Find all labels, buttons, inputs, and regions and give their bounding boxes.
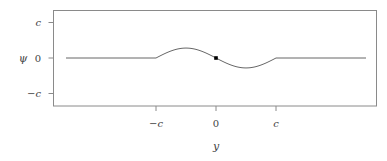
chart: c0−c −c0c ψ y: [0, 0, 387, 161]
y-tick-label: c: [35, 17, 41, 28]
x-tick-label: −c: [149, 118, 163, 129]
x-tick-label: c: [273, 118, 279, 129]
x-axis-label: y: [212, 140, 220, 153]
y-ticks: c0−c: [27, 17, 53, 99]
y-tick-label: −c: [27, 88, 41, 99]
markers: [214, 56, 218, 60]
origin-marker: [214, 56, 218, 60]
x-ticks: −c0c: [149, 106, 279, 129]
y-tick-label: 0: [35, 53, 41, 64]
x-tick-label: 0: [213, 118, 219, 129]
y-axis-label: ψ: [19, 52, 28, 65]
